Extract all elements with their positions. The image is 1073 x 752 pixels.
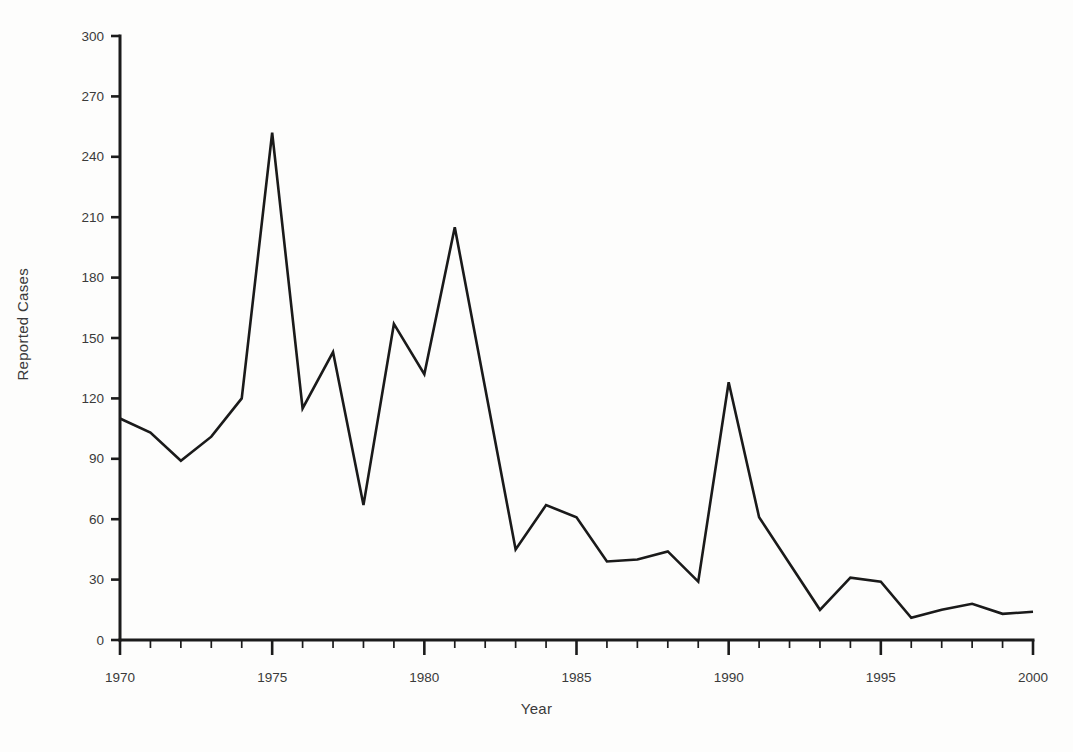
chart-plot-area: 0306090120150180210240270300197019751980… bbox=[0, 0, 1073, 752]
line-chart-figure: 0306090120150180210240270300197019751980… bbox=[0, 0, 1073, 752]
y-axis-tick-label: 240 bbox=[81, 149, 104, 164]
y-axis-tick-label: 60 bbox=[89, 512, 104, 527]
y-axis-tick-label: 210 bbox=[81, 210, 104, 225]
y-axis-tick-label: 150 bbox=[81, 331, 104, 346]
y-axis-title: Reported Cases bbox=[14, 268, 31, 381]
y-axis-tick-label: 270 bbox=[81, 89, 104, 104]
y-axis-tick-label: 300 bbox=[81, 29, 104, 44]
y-axis-tick-label: 0 bbox=[96, 633, 104, 648]
x-axis-tick-label: 1980 bbox=[409, 670, 439, 685]
x-axis-tick-label: 1995 bbox=[866, 670, 896, 685]
y-axis-tick-label: 180 bbox=[81, 270, 104, 285]
y-axis-tick-label: 30 bbox=[89, 572, 104, 587]
y-axis-tick-label: 120 bbox=[81, 391, 104, 406]
x-axis-tick-label: 2000 bbox=[1018, 670, 1048, 685]
data-series-line bbox=[120, 133, 1033, 618]
x-axis-tick-label: 1975 bbox=[257, 670, 287, 685]
x-axis-tick-label: 1985 bbox=[561, 670, 591, 685]
x-axis-tick-label: 1990 bbox=[714, 670, 744, 685]
x-axis-tick-label: 1970 bbox=[105, 670, 135, 685]
x-axis-title: Year bbox=[0, 700, 1073, 717]
y-axis-tick-label: 90 bbox=[89, 451, 104, 466]
